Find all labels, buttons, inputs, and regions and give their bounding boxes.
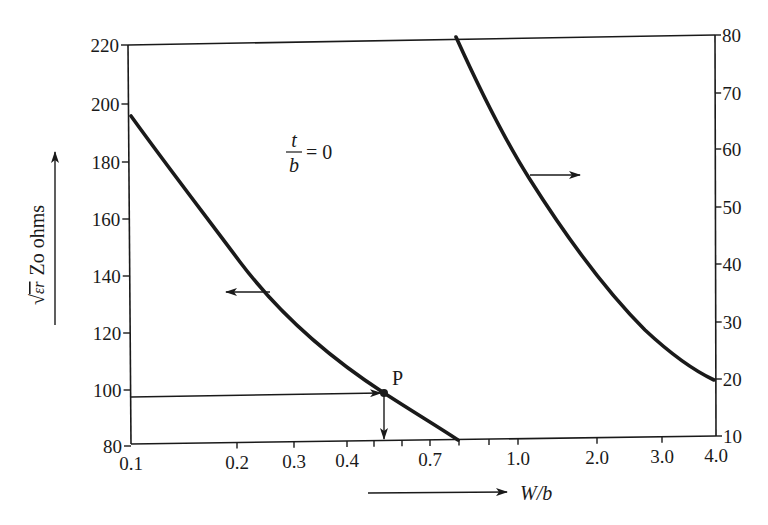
right-tick-label: 20 (723, 369, 742, 390)
right-tick-label: 80 (722, 25, 741, 46)
right-scale-curve (456, 37, 714, 380)
y-label-text: √εrZo ohms (26, 205, 48, 305)
bottom-tick-label: 1.0 (506, 448, 530, 469)
p-horizontal-arrow (131, 393, 381, 397)
left-tick-label: 200 (91, 94, 120, 115)
point-p-label: P (392, 367, 403, 389)
right-tick-label: 10 (723, 426, 742, 447)
right-axis-line (715, 35, 716, 436)
left-tick-label: 220 (91, 35, 120, 56)
right-y-axis-ticks: 8070605040302010 (715, 25, 742, 447)
bottom-tick-label: 2.0 (585, 447, 609, 468)
left-tick-label: 140 (92, 266, 121, 287)
left-tick-label: 180 (91, 152, 120, 173)
left-axis-line (128, 45, 131, 444)
y-axis-label: √εrZo ohms (26, 205, 48, 305)
left-tick-label: 160 (92, 209, 121, 230)
bottom-tick-label: 0.1 (119, 453, 143, 474)
bottom-tick-label: 3.0 (650, 446, 674, 467)
right-tick-label: 60 (722, 139, 741, 160)
right-tick-label: 70 (722, 83, 741, 104)
point-p-marker (380, 389, 388, 397)
right-tick-label: 30 (723, 312, 742, 333)
top-axis-line (128, 35, 715, 45)
right-tick-label: 50 (722, 197, 741, 218)
bottom-tick-label: 0.2 (225, 452, 249, 473)
param-denominator: b (289, 154, 299, 176)
x-axis-label: W/b (520, 482, 552, 504)
bottom-tick-label: 0.7 (418, 449, 442, 470)
y-label-epsilon: εr (30, 281, 47, 294)
left-tick-label: 120 (93, 323, 122, 344)
bottom-tick-label: 4.0 (704, 445, 728, 466)
bottom-tick-label: 0.3 (282, 451, 306, 472)
bottom-tick-label: 0.4 (335, 450, 359, 471)
y-label-rest: Zo ohms (26, 205, 48, 276)
plot-frame (128, 35, 716, 444)
y-label-sqrt: √ (26, 294, 48, 305)
param-numerator: t (291, 129, 297, 151)
bottom-axis-line (131, 436, 716, 444)
left-y-axis-ticks: 22020018016014012010080 (91, 35, 132, 457)
param-equals: = 0 (306, 141, 332, 163)
left-tick-label: 100 (93, 380, 122, 401)
x-axis-direction-arrow (368, 492, 507, 493)
parameter-label: t b = 0 (286, 129, 332, 176)
right-tick-label: 40 (723, 254, 742, 275)
impedance-chart: 22020018016014012010080 8070605040302010… (0, 0, 768, 525)
